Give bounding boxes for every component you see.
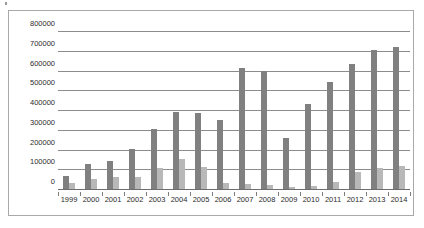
y-axis-tick-label: 100000	[30, 158, 55, 166]
bar	[201, 167, 207, 191]
y-axis-tick-label: 500000	[30, 79, 55, 87]
bar	[129, 149, 135, 190]
x-axis-tick-label: 2007	[234, 195, 256, 204]
x-axis-tick-label: 1999	[58, 195, 80, 204]
x-axis-tick-label: 2010	[300, 195, 322, 204]
bar-group	[234, 32, 256, 190]
x-axis-tick	[410, 192, 411, 196]
x-axis-line	[58, 189, 410, 190]
bar	[371, 50, 377, 190]
x-axis-tick-label: 2002	[124, 195, 146, 204]
bar	[63, 176, 69, 190]
bar-group	[300, 32, 322, 190]
bar	[283, 138, 289, 190]
bar	[157, 168, 163, 190]
x-axis-tick-label: 2003	[146, 195, 168, 204]
y-axis-labels: 0100000200000300000400000500000600000700…	[17, 32, 55, 190]
bar	[179, 159, 185, 190]
x-axis-tick-label: 2009	[278, 195, 300, 204]
x-axis-tick-label: 2008	[256, 195, 278, 204]
bar	[151, 129, 157, 190]
x-axis-labels: 1999200020012002200320042005200620072008…	[58, 192, 410, 208]
bar-group	[190, 32, 212, 190]
plot-wrapper: 0100000200000300000400000500000600000700…	[9, 11, 413, 215]
bar-group	[256, 32, 278, 190]
bar-group	[322, 32, 344, 190]
bar	[85, 164, 91, 190]
x-axis-tick-label: 2000	[80, 195, 102, 204]
x-axis-tick-label: 2014	[388, 195, 410, 204]
bar	[173, 112, 179, 190]
bar	[195, 113, 201, 190]
bar	[393, 47, 399, 190]
bar	[399, 166, 405, 190]
x-axis-tick-label: 2006	[212, 195, 234, 204]
x-axis-tick-label: 2005	[190, 195, 212, 204]
bar	[355, 172, 361, 190]
bar-group	[58, 32, 80, 190]
bar-group	[80, 32, 102, 190]
bar-group	[344, 32, 366, 190]
bar	[305, 104, 311, 191]
y-axis-tick-label: 300000	[30, 119, 55, 127]
bar	[261, 71, 267, 190]
bar	[113, 177, 119, 190]
bar	[349, 64, 355, 190]
bar-group	[212, 32, 234, 190]
bar-group	[102, 32, 124, 190]
stray-speck	[5, 2, 7, 5]
plot-area	[58, 32, 410, 190]
x-axis-tick-label: 2012	[344, 195, 366, 204]
y-axis-tick-label: 200000	[30, 139, 55, 147]
bar-group	[366, 32, 388, 190]
y-axis-tick-label: 600000	[30, 60, 55, 68]
chart-frame: 0100000200000300000400000500000600000700…	[8, 10, 414, 216]
y-axis-tick-label: 400000	[30, 99, 55, 107]
x-axis-tick-label: 2013	[366, 195, 388, 204]
bar	[217, 120, 223, 190]
bars-layer	[58, 32, 410, 190]
bar	[377, 168, 383, 190]
bar-group	[278, 32, 300, 190]
x-axis-tick-label: 2004	[168, 195, 190, 204]
bar-group	[124, 32, 146, 190]
y-axis-tick-label: 800000	[30, 20, 55, 28]
chart-screenshot: 0100000200000300000400000500000600000700…	[0, 0, 424, 228]
bar	[107, 161, 113, 190]
bar	[327, 82, 333, 190]
x-axis-tick-label: 2011	[322, 195, 344, 204]
bar-group	[388, 32, 410, 190]
y-axis-tick-label: 700000	[30, 40, 55, 48]
y-axis-tick-label: 0	[51, 178, 55, 186]
x-axis-tick-label: 2001	[102, 195, 124, 204]
bar	[239, 68, 245, 190]
bar-group	[168, 32, 190, 190]
bar-group	[146, 32, 168, 190]
